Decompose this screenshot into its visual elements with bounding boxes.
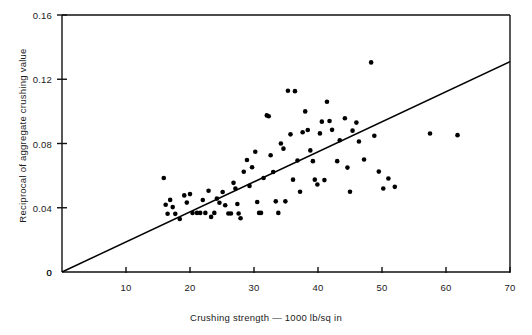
data-point xyxy=(393,185,398,190)
data-point xyxy=(261,176,266,181)
x-tick-label: 60 xyxy=(441,282,452,293)
data-point xyxy=(233,186,238,191)
data-point xyxy=(168,198,173,203)
x-tick-label: 20 xyxy=(185,282,196,293)
data-point xyxy=(308,148,313,153)
data-point xyxy=(177,217,182,222)
data-point xyxy=(276,211,281,216)
data-point xyxy=(335,159,340,164)
data-point xyxy=(327,119,332,124)
data-point xyxy=(203,211,208,216)
data-point xyxy=(235,202,240,207)
data-point xyxy=(362,157,367,162)
data-point xyxy=(231,181,236,186)
data-point xyxy=(206,188,211,193)
data-point xyxy=(190,211,195,216)
data-point xyxy=(223,203,228,208)
data-point xyxy=(291,177,296,182)
x-tick-label: 30 xyxy=(249,282,260,293)
data-points xyxy=(161,60,459,221)
data-point xyxy=(279,141,284,146)
data-point xyxy=(229,211,234,216)
data-point xyxy=(247,184,252,189)
data-point xyxy=(313,177,318,182)
data-point xyxy=(381,186,386,191)
data-point xyxy=(372,133,377,138)
data-point xyxy=(295,158,300,163)
data-point xyxy=(212,211,217,216)
data-point xyxy=(305,128,310,133)
data-point xyxy=(238,216,243,221)
data-point xyxy=(293,89,298,94)
x-tick-label: 10 xyxy=(121,282,132,293)
data-point xyxy=(250,165,255,170)
data-point xyxy=(281,146,286,151)
data-point xyxy=(300,130,305,135)
data-point xyxy=(455,133,460,138)
data-point xyxy=(350,128,355,133)
regression-line xyxy=(62,62,510,272)
data-point xyxy=(182,193,187,198)
data-point xyxy=(337,138,342,143)
data-point xyxy=(357,139,362,144)
data-point xyxy=(348,189,353,194)
data-point xyxy=(320,119,325,124)
data-point xyxy=(245,158,250,163)
data-point xyxy=(283,199,288,204)
data-point xyxy=(271,170,276,175)
origin-label: 0 xyxy=(0,267,52,278)
y-tick-label: 0.16 xyxy=(0,10,52,21)
data-point xyxy=(286,89,291,94)
data-point xyxy=(201,198,206,203)
data-point xyxy=(354,120,359,125)
data-point xyxy=(288,132,293,137)
data-point xyxy=(311,159,316,164)
data-point xyxy=(377,169,382,174)
data-point xyxy=(428,131,433,136)
scatter-plot-figure: 00.040.080.120.160 10203040506070 Crushi… xyxy=(0,0,532,335)
data-point xyxy=(330,128,335,133)
data-point xyxy=(345,165,350,170)
data-point xyxy=(273,199,278,204)
data-point xyxy=(343,116,348,121)
axes-frame xyxy=(62,15,510,272)
data-point xyxy=(268,153,273,158)
data-point xyxy=(253,149,258,154)
data-point xyxy=(322,178,327,183)
data-point xyxy=(170,205,175,210)
x-axis-title: Crushing strength — 1000 lb/sq in xyxy=(0,312,532,323)
data-point xyxy=(209,215,214,220)
data-point xyxy=(217,200,222,205)
x-tick-label: 40 xyxy=(313,282,324,293)
data-point xyxy=(236,211,241,216)
data-point xyxy=(220,190,225,195)
data-point xyxy=(259,211,264,216)
data-point xyxy=(215,196,220,201)
data-point xyxy=(298,189,303,194)
plot-canvas xyxy=(0,0,532,335)
data-point xyxy=(188,192,193,197)
data-point xyxy=(369,60,374,65)
data-point xyxy=(173,212,178,217)
data-point xyxy=(266,114,271,119)
data-point xyxy=(165,211,170,216)
x-tick-label: 70 xyxy=(505,282,516,293)
x-tick-label: 50 xyxy=(377,282,388,293)
y-axis-title: Reciprocal of aggregate crushing value xyxy=(17,21,28,251)
data-point xyxy=(303,109,308,114)
data-point xyxy=(163,202,168,207)
data-point xyxy=(386,176,391,181)
data-point xyxy=(318,131,323,136)
data-point xyxy=(185,200,190,205)
fit-line xyxy=(62,62,510,272)
data-point xyxy=(315,182,320,187)
data-point xyxy=(198,211,203,216)
data-point xyxy=(255,200,260,205)
data-point xyxy=(241,169,246,174)
data-point xyxy=(161,176,166,181)
data-point xyxy=(325,99,330,104)
